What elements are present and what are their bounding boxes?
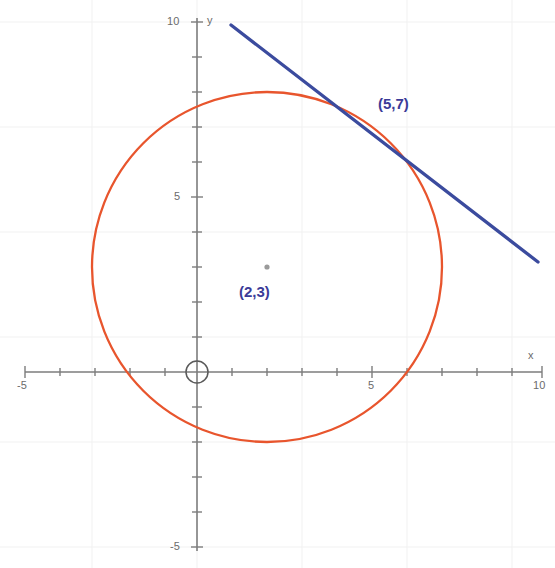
y-tick-label-10: 10 [167,15,180,27]
y-tick-label-5: 5 [174,190,180,202]
tangent-line [231,25,538,262]
coordinate-plane-figure: y x 10 5 -5 -5 5 10 (5,7) (2,3) [0,0,555,568]
x-tick-label-5: 5 [368,379,374,391]
plot-canvas [0,0,555,568]
axes [25,18,542,551]
tangent-point-label: (5,7) [378,95,409,112]
center-point-dot [264,264,269,269]
y-axis-label: y [207,14,213,26]
x-tick-label-10: 10 [533,379,546,391]
center-point-label: (2,3) [239,283,270,300]
x-tick-label-minus5: -5 [17,379,27,391]
y-tick-label-minus5: -5 [170,540,180,552]
background-grid [0,0,555,568]
x-axis-label: x [528,349,534,361]
